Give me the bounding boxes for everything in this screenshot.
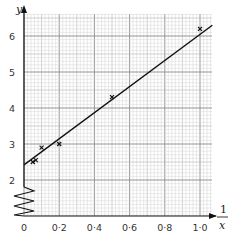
data-points [31,27,202,164]
y-tick-label: 6 [9,31,15,42]
x-axis-label-denominator: x [219,219,226,232]
x-tick-label: 1·0 [192,222,207,233]
y-tick-label: 3 [9,139,15,150]
y-tick-label: 2 [9,175,15,186]
y-tick-label: 5 [9,67,15,78]
grid [24,14,212,216]
x-tick-label: 0 [21,222,27,233]
x-axis-label-numerator: 1 [220,203,227,216]
y-axis-label: y [15,3,23,16]
x-tick-label: 0·6 [122,222,137,233]
x-tick-label: 0·8 [157,222,172,233]
x-axis-arrow-icon [209,213,217,219]
x-tick-label: 0·4 [87,222,102,233]
y-tick-label: 4 [9,103,15,114]
x-tick-label: 0·2 [52,222,67,233]
chart: 00·20·40·60·81·023456 y 1 x [0,0,241,237]
